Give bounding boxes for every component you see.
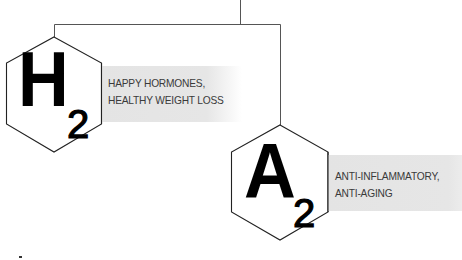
description-h2: HAPPY HORMONES, HEALTHY WEIGHT LOSS <box>108 75 224 109</box>
description-h2-line-2: HEALTHY WEIGHT LOSS <box>108 92 224 109</box>
symbol-a: A <box>244 132 296 210</box>
description-h2-line-1: HAPPY HORMONES, <box>108 75 224 92</box>
subscript-h: 2 <box>67 104 89 144</box>
stray-mark <box>19 256 22 258</box>
symbol-h: H <box>18 40 69 118</box>
subscript-a: 2 <box>293 193 315 233</box>
description-a2-line-2: ANTI-AGING <box>335 185 439 202</box>
description-a2-line-1: ANTI-INFLAMMATORY, <box>335 168 439 185</box>
description-a2: ANTI-INFLAMMATORY, ANTI-AGING <box>335 168 439 202</box>
